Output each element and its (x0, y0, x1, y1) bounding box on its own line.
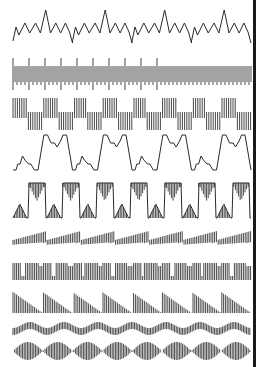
waveform-row-2 (13, 58, 251, 90)
waveform-row-6 (13, 231, 251, 245)
page-edge-bar (253, 0, 256, 367)
waveform-row-10 (13, 342, 250, 360)
waveform-row-8 (13, 292, 251, 313)
waveform-row-5 (13, 183, 251, 218)
waveform-row-4 (13, 135, 251, 170)
waveform-row-1 (13, 10, 251, 43)
waveform-row-7 (13, 263, 251, 280)
waveform-row-9 (13, 322, 250, 335)
waveform-row-3 (13, 98, 251, 130)
waveform-figure (0, 0, 266, 367)
